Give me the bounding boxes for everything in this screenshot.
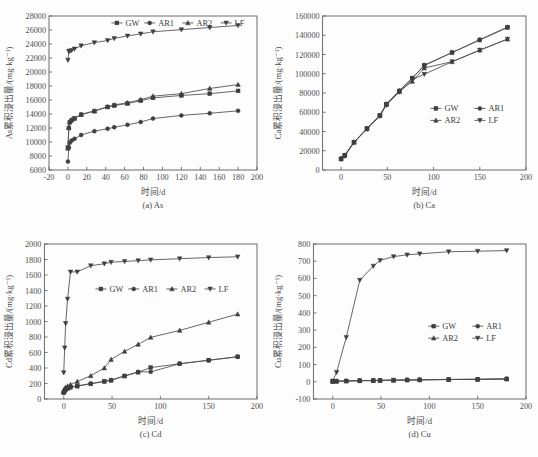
legend: GWAR1AR2LF	[430, 104, 504, 125]
series-AR1	[66, 109, 240, 164]
y-tick-label: 400	[29, 364, 41, 373]
y-tick-label: 8000	[30, 152, 46, 161]
x-tick-label: 40	[102, 173, 110, 182]
y-tick-label: 6000	[30, 166, 46, 175]
series-LF	[61, 255, 240, 375]
y-axis-title: Cd累积浸出量/(mg·kg⁻¹)	[3, 275, 14, 368]
legend-label: AR2	[444, 116, 460, 125]
series-GW	[339, 26, 509, 161]
y-axis-title: Ca累积浸出量/(mg·kg⁻¹)	[272, 47, 283, 140]
panel-a: -200204060801001201401601802006000800010…	[0, 0, 269, 228]
series-GW	[62, 355, 240, 395]
y-tick-label: 800	[298, 240, 310, 249]
y-tick-label: 26000	[26, 26, 46, 35]
panel-caption: (b) Ca	[413, 200, 435, 210]
legend-label: LF	[488, 116, 498, 125]
series-AR2	[339, 37, 510, 161]
y-axis-title: Cu累积浸出量/(mg·kg⁻¹)	[272, 275, 283, 368]
legend-label: GW	[125, 19, 139, 28]
y-tick-label: 12000	[26, 124, 46, 133]
x-tick-label: 120	[175, 173, 187, 182]
legend-label: AR2	[442, 334, 458, 343]
y-tick-label: 18000	[26, 82, 46, 91]
series-AR1	[62, 355, 240, 395]
y-tick-label: 20000	[26, 68, 46, 77]
series-AR1	[339, 25, 509, 160]
y-tick-label: 0	[306, 378, 310, 387]
x-tick-label: 50	[377, 402, 385, 411]
x-tick-label: 20	[83, 173, 91, 182]
y-tick-label: 500	[298, 292, 310, 301]
y-tick-label: 24000	[26, 40, 46, 49]
y-tick-label: 14000	[26, 110, 46, 119]
x-tick-label: 160	[213, 173, 225, 182]
x-tick-label: 100	[423, 402, 435, 411]
y-tick-label: 0	[316, 166, 320, 175]
y-tick-label: 600	[29, 349, 41, 358]
y-tick-label: 0	[37, 395, 41, 404]
legend-label: LF	[486, 334, 496, 343]
y-tick-label: 300	[298, 326, 310, 335]
y-tick-label: 20000	[299, 147, 319, 156]
series-LF	[66, 24, 241, 63]
y-tick-label: 28000	[26, 12, 46, 21]
x-tick-label: 100	[154, 402, 166, 411]
y-tick-label: 22000	[26, 54, 46, 63]
y-tick-label: 60000	[299, 108, 319, 117]
x-tick-label: 80	[139, 173, 147, 182]
y-tick-label: 1400	[25, 287, 41, 296]
series-AR2	[61, 312, 240, 394]
x-tick-label: 180	[232, 173, 244, 182]
panel-b: 0501001502000200004000060000800001000001…	[269, 0, 538, 228]
legend-label: LF	[219, 285, 229, 294]
series-LF	[330, 249, 509, 384]
y-tick-label: 1800	[25, 256, 41, 265]
legend-label: GW	[442, 322, 456, 331]
x-tick-label: 100	[156, 173, 168, 182]
x-axis-title: 时间/d	[138, 415, 163, 426]
series-AR2	[66, 82, 241, 150]
panel-caption: (c) Cd	[140, 429, 162, 439]
y-tick-label: 200	[29, 380, 41, 389]
y-tick-label: 10000	[26, 138, 46, 147]
x-tick-label: 200	[520, 402, 532, 411]
panel-caption: (d) Cu	[409, 429, 432, 439]
x-axis-title: 时间/d	[141, 186, 166, 197]
y-tick-label: 400	[298, 309, 310, 318]
x-tick-label: 60	[121, 173, 129, 182]
legend-label: GW	[444, 104, 458, 113]
panel-d: 050100150200-100010020030040050060070080…	[269, 228, 538, 457]
x-tick-label: 150	[203, 402, 215, 411]
legend-label: AR2	[180, 285, 196, 294]
y-tick-label: 80000	[299, 89, 319, 98]
panel-c: 0501001502000200400600800100012001400160…	[0, 228, 269, 457]
x-tick-label: 50	[383, 173, 391, 182]
y-tick-label: 140000	[295, 31, 320, 40]
chart-a: -200204060801001201401601802006000800010…	[0, 0, 269, 228]
panel-caption: (a) As	[143, 200, 164, 210]
x-tick-label: 50	[108, 402, 116, 411]
x-tick-label: 0	[339, 173, 343, 182]
legend: GWAR1AR2LF	[95, 285, 228, 294]
y-tick-label: 100	[298, 361, 310, 370]
x-tick-label: 0	[66, 173, 70, 182]
legend-label: GW	[109, 285, 123, 294]
y-tick-label: 700	[298, 257, 310, 266]
y-tick-label: 800	[29, 333, 41, 342]
x-axis-title: 时间/d	[412, 186, 437, 197]
chart-c: 0501001502000200400600800100012001400160…	[0, 228, 269, 457]
y-tick-label: -100	[295, 395, 310, 404]
x-tick-label: 150	[472, 402, 484, 411]
y-tick-label: 100000	[295, 70, 320, 79]
legend-label: AR1	[142, 285, 158, 294]
y-tick-label: 160000	[295, 12, 320, 21]
y-tick-label: 1000	[25, 318, 41, 327]
x-tick-label: 200	[251, 402, 263, 411]
y-axis-title: As累积浸出量/(mg·kg⁻¹)	[3, 47, 14, 140]
chart-d: 050100150200-100010020030040050060070080…	[269, 228, 538, 457]
x-tick-label: 140	[194, 173, 206, 182]
x-tick-label: 0	[331, 402, 335, 411]
y-tick-label: 600	[298, 274, 310, 283]
y-tick-label: 1200	[25, 302, 41, 311]
legend-label: LF	[235, 19, 245, 28]
